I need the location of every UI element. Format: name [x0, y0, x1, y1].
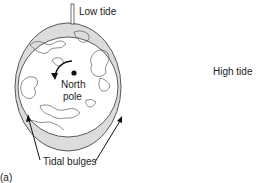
tidal-bulges-label: Tidal bulges [43, 156, 97, 167]
low-tide-label: Low tide [79, 6, 116, 17]
low-tide-marker [71, 4, 74, 24]
tidal-diagram [0, 0, 256, 183]
north-pole-dot [71, 70, 76, 75]
panel-label: (a) [0, 172, 12, 183]
pole-label: pole [63, 91, 82, 102]
high-tide-label: High tide [213, 66, 252, 77]
north-label: North [61, 79, 85, 90]
